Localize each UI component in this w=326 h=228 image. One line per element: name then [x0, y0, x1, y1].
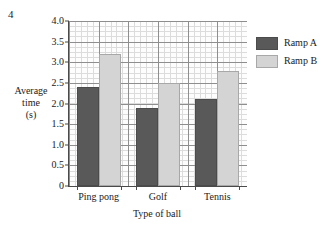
bar-ping-pong-ramp-a [77, 87, 99, 186]
y-tick-label: 2.5 [52, 78, 65, 88]
x-tick-mark [195, 186, 196, 190]
x-tick-mark [136, 186, 137, 190]
y-tick-label: 3.0 [52, 57, 65, 67]
x-category-label: Golf [149, 192, 167, 202]
y-tick-label: 1.0 [52, 140, 65, 150]
y-tick-mark [65, 41, 69, 42]
bar-tennis-ramp-a [195, 99, 217, 186]
y-tick-mark [65, 21, 69, 22]
bar-golf-ramp-b [158, 83, 180, 186]
legend-swatch-ramp-b [256, 55, 278, 68]
legend-item-ramp-a: Ramp A [256, 36, 317, 50]
y-tick-label: 0.5 [52, 160, 65, 170]
legend-item-ramp-b: Ramp B [256, 54, 317, 68]
chart-plot-area: 00.51.01.52.02.53.03.54.0 Ping pongGolfT… [68, 21, 247, 187]
bar-golf-ramp-a [136, 108, 158, 186]
y-tick-label: 3.5 [52, 37, 65, 47]
question-number: 4 [8, 9, 14, 20]
x-tick-mark [77, 186, 78, 190]
y-tick-mark [65, 165, 69, 166]
y-tick-mark [65, 186, 69, 187]
legend-label-ramp-a: Ramp A [284, 38, 317, 48]
y-tick-mark [65, 82, 69, 83]
x-category-label: Ping pong [78, 192, 119, 202]
y-tick-label: 4.0 [52, 16, 65, 26]
y-tick-label: 1.5 [52, 119, 65, 129]
x-category-label: Tennis [204, 192, 231, 202]
bar-tennis-ramp-b [217, 71, 239, 187]
x-axis-title: Type of ball [68, 209, 246, 219]
y-tick-label: 0 [59, 181, 64, 191]
y-tick-label: 2.0 [52, 99, 65, 109]
x-tick-mark [180, 186, 181, 190]
y-tick-mark [65, 62, 69, 63]
y-tick-mark [65, 103, 69, 104]
y-tick-mark [65, 124, 69, 125]
bar-ping-pong-ramp-b [99, 54, 121, 186]
chart-legend: Ramp A Ramp B [256, 36, 317, 72]
x-tick-mark [121, 186, 122, 190]
legend-label-ramp-b: Ramp B [284, 56, 317, 66]
x-tick-mark [239, 186, 240, 190]
legend-swatch-ramp-a [256, 37, 278, 50]
y-tick-mark [65, 144, 69, 145]
